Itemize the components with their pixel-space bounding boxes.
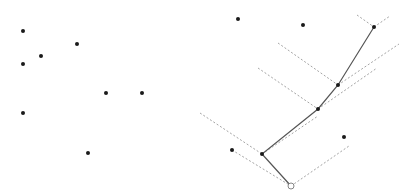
dashed-guide-line <box>262 116 318 154</box>
diagram-canvas <box>0 0 416 195</box>
point <box>21 29 25 33</box>
dashed-guide-line <box>200 113 262 154</box>
point <box>104 91 108 95</box>
point <box>21 111 25 115</box>
dashed-guide-line <box>258 68 318 109</box>
point <box>342 135 346 139</box>
point <box>21 62 25 66</box>
point <box>230 148 234 152</box>
point <box>336 83 340 87</box>
dashed-guide-line <box>338 44 399 85</box>
point <box>39 54 43 58</box>
dashed-guide-line <box>374 16 390 27</box>
point <box>86 151 90 155</box>
dashed-guide-line <box>318 68 377 109</box>
origin-point <box>288 183 294 189</box>
point <box>140 91 144 95</box>
point <box>316 107 320 111</box>
point <box>301 23 305 27</box>
point <box>236 17 240 21</box>
point <box>75 42 79 46</box>
chain-path <box>262 27 374 186</box>
dashed-guide-line <box>357 15 374 27</box>
dashed-guide-line <box>278 43 338 85</box>
dashed-guide-line <box>291 146 349 186</box>
point <box>372 25 376 29</box>
point <box>260 152 264 156</box>
